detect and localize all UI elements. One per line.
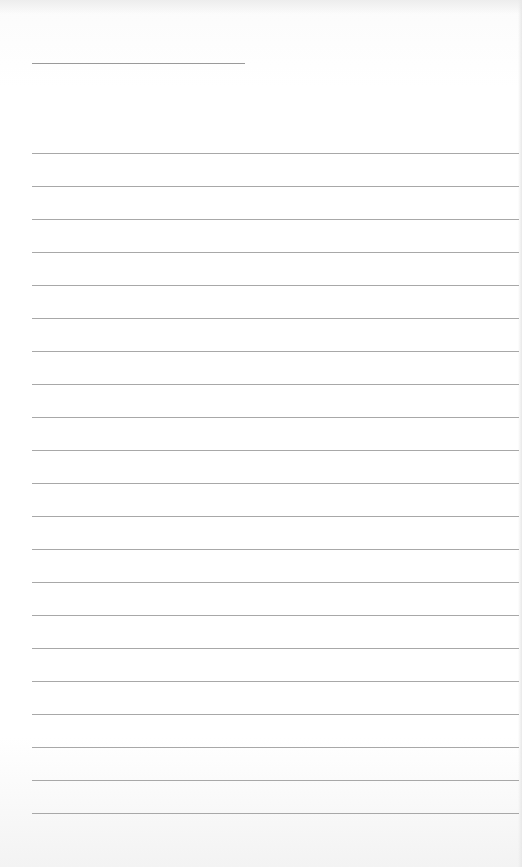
- right-edge-shadow: [518, 0, 522, 867]
- ruled-line: [32, 483, 519, 484]
- ruled-line: [32, 219, 519, 220]
- ruled-line: [32, 582, 519, 583]
- lined-paper-sheet: [0, 0, 522, 867]
- ruled-line: [32, 450, 519, 451]
- ruled-line: [32, 252, 519, 253]
- ruled-line: [32, 186, 519, 187]
- ruled-line: [32, 615, 519, 616]
- ruled-line: [32, 384, 519, 385]
- ruled-line: [32, 285, 519, 286]
- ruled-line: [32, 681, 519, 682]
- ruled-line: [32, 780, 519, 781]
- top-edge-shadow: [0, 0, 522, 14]
- ruled-line: [32, 813, 519, 814]
- title-underline: [32, 63, 245, 64]
- ruled-line: [32, 648, 519, 649]
- ruled-line: [32, 747, 519, 748]
- ruled-line: [32, 516, 519, 517]
- ruled-line: [32, 417, 519, 418]
- ruled-line: [32, 351, 519, 352]
- ruled-line: [32, 153, 519, 154]
- ruled-line: [32, 714, 519, 715]
- ruled-line: [32, 318, 519, 319]
- ruled-line: [32, 549, 519, 550]
